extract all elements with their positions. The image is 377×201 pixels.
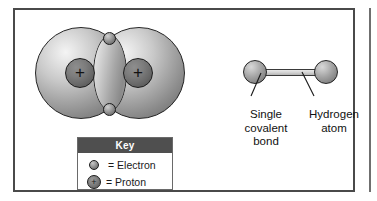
label-hydrogen-atom: Hydrogen atom	[301, 108, 367, 135]
figure-panel: + + Key = Electron + = Proton	[13, 8, 355, 192]
label-line-1: Single	[235, 108, 297, 122]
label-line-2: covalent	[235, 122, 297, 136]
leader-line-hydrogen-atom	[302, 72, 314, 96]
label-line-2: atom	[301, 122, 367, 136]
adjacent-panel-edge	[369, 8, 377, 192]
label-line-1: Hydrogen	[301, 108, 367, 122]
figure-page: + + Key = Electron + = Proton	[0, 0, 377, 201]
leader-line-covalent-bond	[251, 73, 261, 96]
leader-lines	[15, 10, 357, 194]
label-line-3: bond	[235, 135, 297, 149]
label-single-covalent-bond: Single covalent bond	[235, 108, 297, 149]
